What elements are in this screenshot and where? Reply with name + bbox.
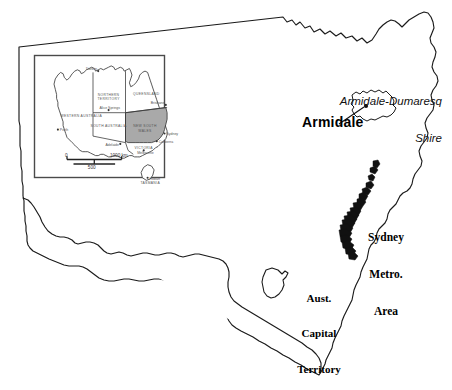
label-australian-capital-territory: Aust. Capital Territory bbox=[288, 269, 350, 390]
inset-label-nt-2: TERRITORY bbox=[97, 97, 120, 101]
label-act-line1: Aust. bbox=[288, 293, 350, 305]
label-act-line3: Territory bbox=[288, 364, 350, 376]
label-armidale: Armidale bbox=[302, 115, 364, 130]
inset-label-nsw-2: WALES bbox=[138, 129, 152, 133]
map-figure: WESTERN AUSTRALIA NORTHERN TERRITORY QUE… bbox=[0, 0, 452, 390]
inset-label-sa: SOUTH AUSTRALIA bbox=[91, 124, 127, 128]
label-sydney-line1: Sydney bbox=[358, 231, 414, 243]
label-sydney-line2: Metro. bbox=[358, 268, 414, 280]
label-act-line2: Capital bbox=[288, 328, 350, 340]
inset-city-alice: Alice Springs bbox=[100, 106, 121, 110]
scale-mid: 500 bbox=[88, 165, 96, 170]
label-shire-line2: Shire bbox=[318, 132, 442, 144]
label-shire-line1: Armidale-Dumaresq bbox=[318, 95, 442, 107]
australia-inset: WESTERN AUSTRALIA NORTHERN TERRITORY QUE… bbox=[35, 56, 179, 186]
inset-city-perth: Perth bbox=[60, 128, 68, 132]
inset-label-tas: TASMANIA bbox=[140, 181, 160, 185]
inset-city-canberra: Canberra bbox=[159, 140, 174, 144]
inset-city-melbourne: Melbourne bbox=[137, 151, 154, 155]
scale-zero: 0 bbox=[65, 153, 68, 158]
label-sydney-metro-area: Sydney Metro. Area bbox=[358, 206, 414, 342]
inset-label-nsw: NEW SOUTH bbox=[133, 124, 157, 128]
inset-label-qld: QUEENSLAND bbox=[133, 92, 160, 96]
scale-max: 1000 km bbox=[110, 153, 128, 158]
label-sydney-line3: Area bbox=[358, 305, 414, 317]
inset-label-nt: NORTHERN bbox=[98, 93, 120, 97]
inset-city-adelaide: Adelaide bbox=[105, 143, 119, 147]
inset-city-darwin: Darwin bbox=[86, 67, 97, 71]
inset-city-sydney: Sydney bbox=[166, 132, 178, 136]
inset-city-hobart: Hobart bbox=[150, 177, 161, 181]
inset-label-wa: WESTERN AUSTRALIA bbox=[60, 114, 102, 118]
inset-city-brisbane: Brisbane bbox=[151, 101, 165, 105]
